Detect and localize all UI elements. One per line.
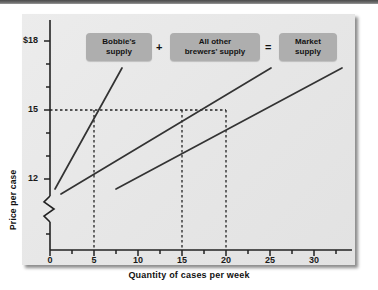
x-axis-title: Quantity of cases per week [0, 270, 378, 280]
equals-operator: = [265, 41, 271, 53]
y-tick-label-18: $18 [14, 35, 38, 45]
chart-guide-lines [50, 110, 226, 250]
x-tick-label-10: 10 [126, 255, 150, 265]
x-tick-label-30: 30 [302, 255, 326, 265]
line-market-supply [116, 68, 342, 189]
x-tick-label-5: 5 [82, 255, 106, 265]
x-tick-label-0: 0 [38, 255, 62, 265]
supply-curves [55, 68, 342, 194]
legend-box-market-supply[interactable]: Market supply [279, 33, 337, 61]
x-tick-label-20: 20 [214, 255, 238, 265]
legend-box-1-line1: All other [199, 37, 231, 46]
plus-operator: + [156, 41, 162, 53]
legend-box-2-line2: supply [295, 47, 321, 56]
x-tick-label-15: 15 [170, 255, 194, 265]
legend-box-2-line1: Market [295, 37, 321, 46]
line-all-other-brewers-supply [61, 68, 271, 194]
legend-box-0-line1: Bobbie's [102, 37, 135, 46]
legend-box-bobbies-supply[interactable]: Bobbie's supply [86, 33, 152, 61]
legend-box-1-line2: brewers' supply [185, 47, 246, 56]
legend-box-all-other-brewers-supply[interactable]: All other brewers' supply [170, 33, 260, 61]
legend-box-0-line2: supply [106, 47, 132, 56]
y-axis-break-icon [44, 196, 54, 222]
x-tick-label-25: 25 [258, 255, 282, 265]
y-axis-title-wrap: Price per case [24, 100, 38, 190]
y-axis-title: Price per case [8, 170, 18, 230]
line-bobbies-supply [55, 68, 122, 189]
